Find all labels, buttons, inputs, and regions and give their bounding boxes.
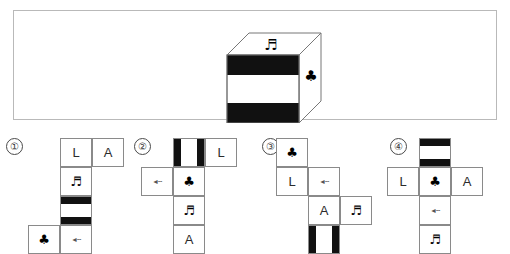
stripes-h-pattern [61,197,91,224]
cell-club-content: ♣ [420,168,450,195]
stripe-bar [332,226,339,253]
cell-a-content: A [174,226,204,253]
cell-a-content: A [309,197,339,224]
stripe-bar [197,139,204,166]
cell-striped [60,196,92,225]
question-panel: ♬ ♣ [13,10,497,120]
cell-note-content: ♬ [341,197,371,224]
cell-a: A [451,167,483,196]
stripe-bar [309,226,316,253]
stripes-h-pattern [420,139,450,166]
cell-striped [419,138,451,167]
cell-a: A [92,138,124,167]
option-number-1: ① [6,138,23,155]
cell-a-content: A [93,139,123,166]
cell-a-content: A [452,168,482,195]
cell-a: A [308,196,340,225]
cell-a: A [173,225,205,254]
stripe-bar [174,139,181,166]
cell-striped [308,225,340,254]
cell-note-content: ♬ [420,226,450,253]
cell-club-content: ♣ [277,139,307,166]
cell-glyph-content: ◄╌ [309,168,339,195]
cell-note-content: ♬ [61,168,91,195]
cell-note-content: ♬ [174,197,204,224]
cell-glyph: ◄╌ [419,196,451,225]
answer-options-row: ①LA♬♣◄╌②L◄╌♣♬A③♣L◄╌A♬④L♣A◄╌♬ [0,130,510,251]
cell-l: L [60,138,92,167]
cell-club-content: ♣ [29,226,59,253]
stripe-bar [420,139,450,146]
cube-front-stripe-bottom [227,103,299,123]
cell-glyph-content: ◄╌ [61,226,91,253]
answer-option-4[interactable]: ④L♣A◄╌♬ [384,130,510,251]
answer-option-2[interactable]: ②L◄╌♣♬A [128,130,255,251]
stripe-bar [61,217,91,224]
cell-club: ♣ [28,225,60,254]
cell-l-content: L [277,168,307,195]
option-number-4: ④ [390,138,407,155]
cell-glyph-content: ◄╌ [420,197,450,224]
cell-l: L [387,167,419,196]
cell-striped [173,138,205,167]
cell-glyph: ◄╌ [308,167,340,196]
cell-l: L [276,167,308,196]
stripes-v-pattern [309,226,339,253]
answer-option-1[interactable]: ①LA♬♣◄╌ [0,130,127,251]
stripe-bar [420,159,450,166]
cube-front-stripe-top [227,55,299,75]
cube-svg: ♬ ♣ [219,23,329,123]
stripes-v-pattern [174,139,204,166]
cube-right-symbol: ♣ [304,67,317,85]
cell-club: ♣ [276,138,308,167]
cell-l-content: L [61,139,91,166]
cell-note: ♬ [60,167,92,196]
cube-top-symbol: ♬ [264,36,277,54]
cell-note: ♬ [419,225,451,254]
cell-glyph: ◄╌ [141,167,173,196]
cell-club: ♣ [173,167,205,196]
cell-glyph: ◄╌ [60,225,92,254]
cell-glyph-content: ◄╌ [142,168,172,195]
cell-l-content: L [206,139,236,166]
cell-l: L [205,138,237,167]
cell-l-content: L [388,168,418,195]
option-number-2: ② [134,138,151,155]
cell-club-content: ♣ [174,168,204,195]
cell-note: ♬ [340,196,372,225]
cell-note: ♬ [173,196,205,225]
stripe-bar [61,197,91,204]
cube-figure: ♬ ♣ [219,23,329,123]
answer-option-3[interactable]: ③♣L◄╌A♬ [256,130,383,251]
cell-club: ♣ [419,167,451,196]
